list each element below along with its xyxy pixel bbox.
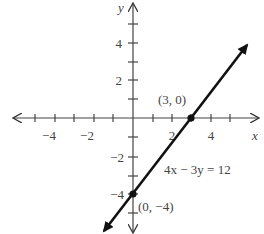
y-axis-label: y <box>116 0 124 15</box>
point-label-a: (3, 0) <box>158 92 186 107</box>
x-tick-label: −2 <box>80 128 94 143</box>
x-tick-label: −4 <box>42 128 56 143</box>
x-tick-label: 4 <box>208 128 215 143</box>
line-series <box>104 45 247 231</box>
y-tick-label: −4 <box>110 187 124 202</box>
coordinate-plane: −4 −2 2 4 x 4 2 −2 −4 y (3, 0) (0, −4) 4… <box>0 0 264 234</box>
y-tick-label: 4 <box>116 36 123 51</box>
point-0-neg4 <box>129 190 136 197</box>
x-axis-label: x <box>251 128 258 143</box>
x-axis <box>14 114 258 122</box>
point-3-0 <box>187 114 194 121</box>
equation-label: 4x − 3y = 12 <box>164 162 231 177</box>
y-tick-label: −2 <box>110 150 124 165</box>
point-label-b: (0, −4) <box>138 199 174 214</box>
y-tick-label: 2 <box>116 73 123 88</box>
